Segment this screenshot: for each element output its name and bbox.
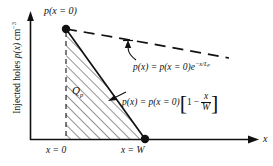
boundary-value-label: p(x = 0) (44, 6, 77, 16)
figure-canvas: Injected holes p(x) cm−3 p(x = 0) x = 0 … (0, 0, 273, 166)
y-axis-label-unit-exponent: −3 (10, 22, 17, 29)
exponential-equation-lhs: p(x) = p(x = 0) (133, 62, 191, 72)
exponential-profile-curve (66, 29, 229, 58)
x-tick-label-zero: x = 0 (46, 146, 66, 156)
y-axis-label-unit: cm (12, 29, 22, 43)
stored-charge-label: Qp (72, 85, 83, 99)
x-axis-label: x (263, 134, 267, 144)
plot-svg (0, 0, 273, 166)
y-axis (27, 11, 34, 140)
exponential-equation-label: p(x) = p(x = 0)e−x/Lp (133, 61, 210, 73)
exponential-equation-exponent-subscript: p (208, 62, 211, 67)
linear-equation-fraction-denominator: W (201, 103, 211, 113)
linear-equation-bracket-close: ] (211, 96, 218, 110)
linear-equation-lhs: p(x) = p(x = 0) (122, 97, 180, 107)
marker-boundary-x0 (62, 25, 70, 33)
x-tick-label-w: x = W (121, 146, 144, 156)
y-axis-label-prefix: Injected holes (12, 58, 22, 113)
marker-boundary-xW (141, 135, 149, 143)
stored-charge-subscript: p (80, 91, 83, 98)
exponential-leader-line (123, 40, 136, 60)
y-axis-label-variable: p(x) (12, 43, 22, 58)
linear-equation-minus: − (192, 97, 201, 107)
stored-charge-symbol: Q (72, 84, 80, 96)
linear-equation-bracket-open: [ (180, 96, 187, 110)
linear-equation-fraction: xW (201, 92, 211, 113)
y-axis-label: Injected holes p(x) cm−3 (11, 9, 23, 127)
exponential-equation-exponent: −x/L (195, 60, 208, 67)
linear-equation-label: p(x) = p(x = 0)[1−xW] (122, 92, 218, 113)
